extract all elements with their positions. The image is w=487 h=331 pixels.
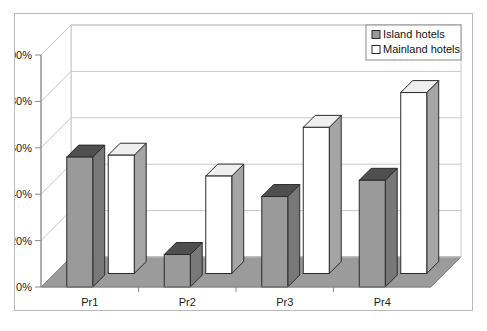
- y-tick-label-100: 100%: [15, 49, 32, 61]
- bar-front-face: [359, 180, 385, 287]
- bar-Pr3-island[interactable]: [262, 185, 300, 287]
- bar-side-face: [134, 143, 146, 273]
- bar-front-face: [262, 197, 288, 287]
- bar-front-face: [164, 255, 190, 287]
- legend-label-mainland: Mainland hotels: [383, 43, 461, 55]
- bar-Pr1-island[interactable]: [67, 145, 105, 287]
- x-tick-label-Pr4: Pr4: [374, 296, 391, 308]
- bar-side-face: [93, 145, 105, 287]
- legend-label-island: Island hotels: [383, 28, 445, 40]
- bar-side-face: [288, 185, 300, 287]
- y-axis-labels: 100% 80% 60% 40% 20% 0%: [15, 49, 32, 293]
- x-tick-label-Pr3: Pr3: [276, 296, 293, 308]
- y-tick-label-60: 60%: [15, 142, 32, 154]
- bar-side-face: [329, 115, 341, 273]
- bar-front-face: [206, 176, 232, 273]
- bar-Pr4-mainland[interactable]: [401, 81, 439, 274]
- y-tick-label-0: 0%: [16, 281, 32, 293]
- bar-side-face: [385, 168, 397, 287]
- legend-swatch-mainland-icon: [372, 46, 380, 54]
- bar-front-face: [401, 93, 427, 274]
- x-tick-label-Pr2: Pr2: [179, 296, 196, 308]
- x-axis-layer: Pr1Pr2Pr3Pr4: [81, 287, 391, 308]
- bar-side-face: [427, 81, 439, 274]
- legend-item-island[interactable]: Island hotels: [372, 28, 445, 40]
- bar-front-face: [67, 157, 93, 287]
- bar-chart: 100% 80% 60% 40% 20% 0% Pr1Pr2Pr3Pr4 Isl…: [15, 14, 472, 310]
- bar-front-face: [108, 155, 134, 273]
- bar-side-face: [232, 164, 244, 273]
- y-tick-label-20: 20%: [15, 235, 32, 247]
- y-tick-label-40: 40%: [15, 188, 32, 200]
- legend-swatch-island-icon: [372, 31, 380, 39]
- y-tick-label-80: 80%: [15, 95, 32, 107]
- bar-Pr4-island[interactable]: [359, 168, 397, 287]
- bar-Pr1-mainland[interactable]: [108, 143, 146, 273]
- bar-Pr2-island[interactable]: [164, 243, 202, 287]
- bar-front-face: [303, 127, 329, 273]
- bar-Pr3-mainland[interactable]: [303, 115, 341, 273]
- x-tick-label-Pr1: Pr1: [81, 296, 98, 308]
- chart-frame: 100% 80% 60% 40% 20% 0% Pr1Pr2Pr3Pr4 Isl…: [14, 13, 473, 311]
- legend-item-mainland[interactable]: Mainland hotels: [372, 43, 461, 55]
- chart-legend[interactable]: Island hotels Mainland hotels: [366, 25, 461, 60]
- y-tick-marks: [35, 55, 41, 287]
- bar-Pr2-mainland[interactable]: [206, 164, 244, 273]
